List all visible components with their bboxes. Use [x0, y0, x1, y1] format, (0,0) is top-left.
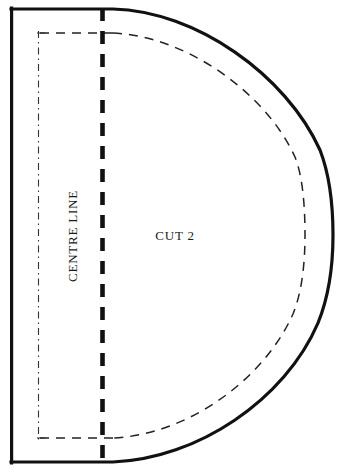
cut-2-label: CUT 2: [155, 228, 194, 244]
centre-line-label: CENTRE LINE: [65, 190, 81, 282]
pattern-sheet: CENTRE LINE CUT 2: [0, 0, 346, 473]
stitching-line-arc: [113, 33, 305, 438]
